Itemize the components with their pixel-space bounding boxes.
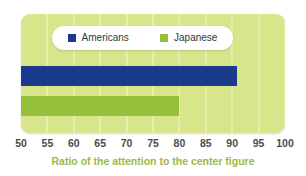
x-axis-tick-label: 60 [68,136,80,150]
x-axis-tick-label: 50 [15,136,27,150]
bar-japanese [21,96,179,116]
x-axis: 50556065707580859095100 [21,136,285,150]
gridline [284,14,285,133]
x-axis-tick-label: 75 [147,136,159,150]
x-axis-tick-label: 65 [94,136,106,150]
legend-swatch-icon-japanese [160,34,168,42]
x-axis-tick-label: 95 [253,136,265,150]
bar-chart-figure: Americans Japanese 505560657075808590951… [0,0,306,176]
chart-legend: Americans Japanese [52,26,233,50]
gridline [258,14,260,133]
legend-item-japanese: Japanese [160,33,217,43]
x-axis-tick-label: 85 [200,136,212,150]
x-axis-tick-label: 90 [226,136,238,150]
bar-americans [21,66,237,86]
axis-caption: Ratio of the attention to the center fig… [0,155,306,168]
legend-item-americans: Americans [68,33,129,43]
legend-swatch-icon-americans [68,34,76,42]
x-axis-tick-label: 70 [121,136,133,150]
legend-label-japanese: Japanese [174,33,217,43]
x-axis-tick-label: 80 [174,136,186,150]
legend-label-americans: Americans [82,33,129,43]
x-axis-tick-label: 55 [42,136,54,150]
x-axis-tick-label: 100 [276,136,294,150]
